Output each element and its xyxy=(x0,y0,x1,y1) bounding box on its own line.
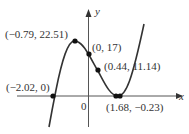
point-x-intercept xyxy=(50,93,55,98)
x-axis-label: x xyxy=(178,90,184,102)
y-axis-label: y xyxy=(94,5,100,17)
point-inflection xyxy=(95,67,100,72)
label-x-intercept: (−2.02, 0) xyxy=(6,81,50,94)
label-inflection: (0.44, 11.14) xyxy=(104,60,161,73)
point-local-max xyxy=(72,38,77,43)
label-local-min: (1.68, −0.23) xyxy=(106,101,164,114)
label-local-max: (−0.79, 22.51) xyxy=(5,28,68,41)
label-y-intercept: (0, 17) xyxy=(92,41,122,54)
point-local-min-b xyxy=(117,93,122,98)
y-axis-arrow-icon xyxy=(86,9,92,17)
origin-label: 0 xyxy=(81,100,87,112)
function-graph: y x 0 (−0.79, 22.51) (0, 17) (0.44, 11.1… xyxy=(0,0,189,134)
point-y-intercept xyxy=(86,51,91,56)
